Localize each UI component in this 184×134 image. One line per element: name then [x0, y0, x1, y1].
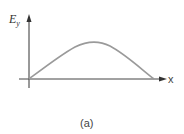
diagram-canvas [0, 0, 184, 134]
x-axis-arrow-icon [159, 77, 167, 82]
x-axis [19, 77, 167, 82]
figure-caption: (a) [80, 117, 93, 129]
y-axis-arrow-icon [27, 14, 32, 22]
y-axis-label: Ey [9, 12, 20, 28]
field-curve [29, 42, 154, 79]
x-axis-label: x [168, 73, 174, 85]
